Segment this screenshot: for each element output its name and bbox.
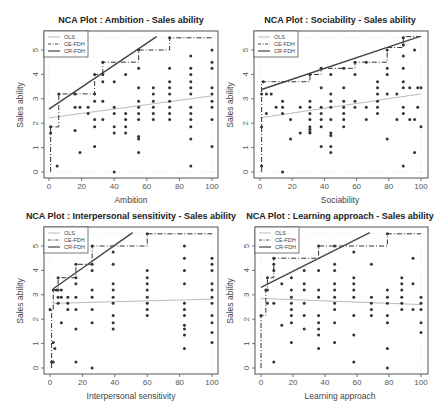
plot-title: NCA Plot : Interpersonal sensitivity - S… (26, 211, 236, 221)
ols-line (49, 96, 212, 118)
x-tick-label: 100 (414, 182, 428, 191)
ols-line (53, 299, 212, 303)
y-tick-label: 3 (242, 292, 251, 297)
legend-item-ce-fdh: CE-FDH (274, 41, 295, 47)
y-tick-label: 1 (31, 341, 40, 346)
y-tick-label: 4 (31, 268, 40, 273)
x-axis-label: Learning approach (305, 391, 376, 401)
x-tick-label: 20 (289, 378, 298, 387)
x-tick-label: 60 (142, 182, 151, 191)
x-axis-ticks: 020406080100 (47, 178, 219, 191)
x-tick-label: 0 (47, 182, 52, 191)
y-axis-label: Sales ability (225, 278, 235, 324)
x-tick-label: 80 (384, 182, 393, 191)
x-tick-label: 60 (143, 378, 152, 387)
y-tick-label: 4 (241, 72, 250, 77)
plot-title: NCA Plot : Learning approach - Sales abi… (246, 211, 434, 221)
y-tick-label: 5 (241, 47, 250, 52)
legend-item-ce-fdh: CE-FDH (64, 237, 85, 243)
legend-item-cr-fdh: CR-FDH (64, 244, 85, 250)
legend-item-ols: OLS (64, 230, 75, 236)
y-tick-label: 2 (242, 316, 251, 321)
legend-item-ce-fdh: CE-FDH (64, 41, 85, 47)
x-tick-label: 0 (258, 182, 263, 191)
y-axis-ticks: 012345 (31, 243, 44, 370)
y-axis-ticks: 012345 (241, 47, 254, 174)
y-tick-label: 2 (31, 120, 40, 125)
ols-line (261, 298, 421, 304)
y-tick-label: 2 (241, 120, 250, 125)
x-tick-label: 60 (353, 378, 362, 387)
y-tick-label: 0 (241, 169, 250, 174)
y-tick-label: 1 (242, 341, 251, 346)
nca-plot-grid: NCA Plot : Ambition - Sales ability Ambi… (0, 0, 447, 415)
y-tick-label: 1 (31, 145, 40, 150)
x-tick-label: 100 (205, 182, 219, 191)
x-tick-label: 40 (110, 378, 119, 387)
y-tick-label: 2 (31, 316, 40, 321)
legend-item-cr-fdh: CR-FDH (64, 48, 85, 54)
x-tick-label: 20 (288, 182, 297, 191)
x-axis-ticks: 020406080100 (48, 374, 219, 387)
y-axis-label: Sales ability (225, 82, 235, 128)
x-tick-label: 80 (385, 378, 394, 387)
legend-item-cr-fdh: CR-FDH (275, 244, 296, 250)
x-tick-label: 20 (78, 378, 87, 387)
x-tick-label: 0 (48, 378, 53, 387)
legend-item-ols: OLS (64, 34, 75, 40)
x-axis-label: Interpersonal sensitivity (87, 391, 177, 401)
y-tick-label: 0 (31, 365, 40, 370)
y-tick-label: 4 (242, 268, 251, 273)
y-axis-label: Sales ability (15, 278, 25, 324)
legend: OLSCE-FDHCR-FDH (254, 31, 298, 57)
y-tick-label: 5 (242, 243, 251, 248)
x-axis-label: Sociability (321, 195, 360, 205)
legend-item-ols: OLS (274, 34, 285, 40)
y-tick-label: 4 (31, 72, 40, 77)
x-tick-label: 80 (175, 378, 184, 387)
y-tick-label: 5 (31, 243, 40, 248)
y-tick-label: 5 (31, 47, 40, 52)
y-tick-label: 3 (31, 292, 40, 297)
x-tick-label: 80 (175, 182, 184, 191)
y-tick-label: 0 (31, 169, 40, 174)
panel-sociability: NCA Plot : Sociability - Sales ability S… (225, 15, 428, 205)
ols-line (260, 94, 421, 118)
x-axis-ticks: 020406080100 (259, 374, 428, 387)
legend: OLSCE-FDHCR-FDH (44, 31, 88, 57)
y-tick-label: 3 (31, 96, 40, 101)
ce-fdh-line (261, 234, 421, 368)
panel-interpersonal-sensitivity: NCA Plot : Interpersonal sensitivity - S… (15, 211, 236, 401)
y-axis-label: Sales ability (15, 82, 25, 128)
y-tick-label: 0 (242, 365, 251, 370)
x-tick-label: 0 (259, 378, 264, 387)
legend-item-ols: OLS (275, 230, 286, 236)
x-tick-label: 40 (320, 182, 329, 191)
y-tick-label: 1 (241, 145, 250, 150)
legend-item-ce-fdh: CE-FDH (275, 237, 296, 243)
ce-fdh-line (51, 38, 212, 172)
x-tick-label: 20 (77, 182, 86, 191)
legend: OLSCE-FDHCR-FDH (255, 227, 299, 253)
y-axis-ticks: 012345 (31, 47, 44, 174)
x-tick-label: 100 (205, 378, 219, 387)
panel-ambition: NCA Plot : Ambition - Sales ability Ambi… (15, 15, 219, 205)
legend-item-cr-fdh: CR-FDH (274, 48, 295, 54)
y-tick-label: 3 (241, 96, 250, 101)
x-axis-ticks: 020406080100 (258, 178, 428, 191)
x-tick-label: 100 (414, 378, 428, 387)
legend: OLSCE-FDHCR-FDH (44, 227, 88, 253)
plot-title: NCA Plot : Ambition - Sales ability (58, 15, 203, 25)
y-axis-ticks: 012345 (242, 243, 255, 370)
x-tick-label: 60 (352, 182, 361, 191)
x-tick-label: 40 (110, 182, 119, 191)
panel-learning-approach: NCA Plot : Learning approach - Sales abi… (225, 211, 434, 401)
x-tick-label: 40 (321, 378, 330, 387)
plot-title: NCA Plot : Sociability - Sales ability (264, 15, 416, 25)
x-axis-label: Ambition (114, 195, 147, 205)
